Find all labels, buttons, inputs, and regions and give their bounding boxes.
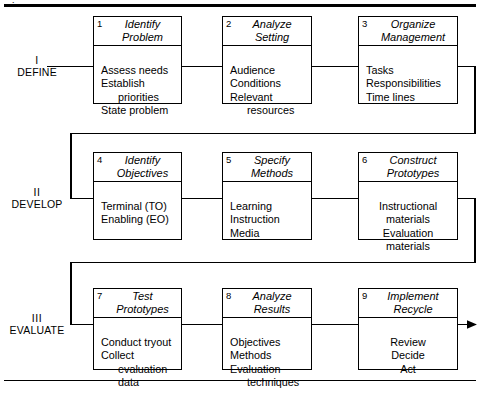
phase-numeral: II xyxy=(0,186,74,198)
box-item: Media xyxy=(230,227,311,240)
box-item: evaluation xyxy=(101,363,181,376)
box-header: 6 Construct Prototypes xyxy=(359,153,457,182)
box-item: Enabling (EO) xyxy=(101,213,181,226)
box-title: Implement Recycle xyxy=(359,290,457,316)
phase-numeral: I xyxy=(0,54,74,66)
box-title: Identify Objectives xyxy=(94,154,181,180)
box-items: Audience Conditions Relevant resources xyxy=(223,62,311,118)
phase-label-evaluate: III EVALUATE xyxy=(0,312,74,336)
box-item: Instructional xyxy=(359,200,457,213)
process-box-9[interactable]: 9 Implement Recycle Review Decide Act xyxy=(358,288,458,370)
diagram-canvas: gjpq y xyxy=(0,0,480,395)
process-box-8[interactable]: 8 Analyze Results Objectives Methods Eva… xyxy=(222,288,312,370)
phase-label-develop: II DEVELOP xyxy=(0,186,74,210)
box-item: Establish xyxy=(101,77,181,90)
phase-label-define: I DEFINE xyxy=(0,54,74,78)
box-item: Learning xyxy=(230,200,311,213)
box-item: Act xyxy=(359,363,457,376)
box-item: materials xyxy=(359,213,457,226)
box-item: techniques xyxy=(230,376,311,389)
box-header: 8 Analyze Results xyxy=(223,289,311,318)
box-item: Relevant xyxy=(230,91,311,104)
box-header: 2 Analyze Setting xyxy=(223,17,311,46)
box-item: Collect xyxy=(101,349,181,362)
box-header: 7 Test Prototypes xyxy=(94,289,181,318)
phase-name: DEVELOP xyxy=(0,198,74,210)
phase-name: DEFINE xyxy=(0,66,74,78)
box-items: Assess needs Establish priorities State … xyxy=(94,62,181,118)
box-item: materials xyxy=(359,240,457,253)
box-header: 9 Implement Recycle xyxy=(359,289,457,318)
box-item: Evaluation xyxy=(230,363,311,376)
box-item: Objectives xyxy=(230,336,311,349)
box-item: Time lines xyxy=(366,91,457,104)
box-header: 1 Identify Problem xyxy=(94,17,181,46)
box-item: priorities xyxy=(101,91,181,104)
box-title: Organize Management xyxy=(359,18,457,44)
box-item: Decide xyxy=(359,349,457,362)
box-header: 3 Organize Management xyxy=(359,17,457,46)
box-item: Audience xyxy=(230,64,311,77)
box-items: Terminal (TO) Enabling (EO) xyxy=(94,198,181,227)
box-item: Conduct tryout xyxy=(101,336,181,349)
box-items: Learning Instruction Media xyxy=(223,198,311,240)
box-item: Review xyxy=(359,336,457,349)
box-items: Review Decide Act xyxy=(359,334,457,376)
box-item: Responsibilities xyxy=(366,77,457,90)
box-item: Assess needs xyxy=(101,64,181,77)
box-title: Construct Prototypes xyxy=(359,154,457,180)
box-item: data xyxy=(101,376,181,389)
box-item: resources xyxy=(230,104,311,117)
process-box-1[interactable]: 1 Identify Problem Assess needs Establis… xyxy=(93,16,182,104)
process-box-3[interactable]: 3 Organize Management Tasks Responsibili… xyxy=(358,16,458,104)
box-title: Test Prototypes xyxy=(94,290,181,316)
phase-numeral: III xyxy=(0,312,74,324)
box-item: Tasks xyxy=(366,64,457,77)
phase-name: EVALUATE xyxy=(0,324,74,336)
process-box-2[interactable]: 2 Analyze Setting Audience Conditions Re… xyxy=(222,16,312,104)
box-items: Objectives Methods Evaluation techniques xyxy=(223,334,311,390)
box-item: Instruction xyxy=(230,213,311,226)
box-items: Instructional materials Evaluation mater… xyxy=(359,198,457,254)
box-item: Terminal (TO) xyxy=(101,200,181,213)
box-title: Analyze Setting xyxy=(223,18,311,44)
box-header: 5 Specify Methods xyxy=(223,153,311,182)
process-box-6[interactable]: 6 Construct Prototypes Instructional mat… xyxy=(358,152,458,240)
box-title: Identify Problem xyxy=(94,18,181,44)
box-items: Conduct tryout Collect evaluation data xyxy=(94,334,181,390)
box-title: Analyze Results xyxy=(223,290,311,316)
box-item: Conditions xyxy=(230,77,311,90)
box-items: Tasks Responsibilities Time lines xyxy=(359,62,457,104)
process-box-4[interactable]: 4 Identify Objectives Terminal (TO) Enab… xyxy=(93,152,182,240)
box-item: Methods xyxy=(230,349,311,362)
process-box-5[interactable]: 5 Specify Methods Learning Instruction M… xyxy=(222,152,312,240)
box-header: 4 Identify Objectives xyxy=(94,153,181,182)
process-box-7[interactable]: 7 Test Prototypes Conduct tryout Collect… xyxy=(93,288,182,370)
box-item: State problem xyxy=(101,104,181,117)
box-title: Specify Methods xyxy=(223,154,311,180)
box-item: Evaluation xyxy=(359,227,457,240)
